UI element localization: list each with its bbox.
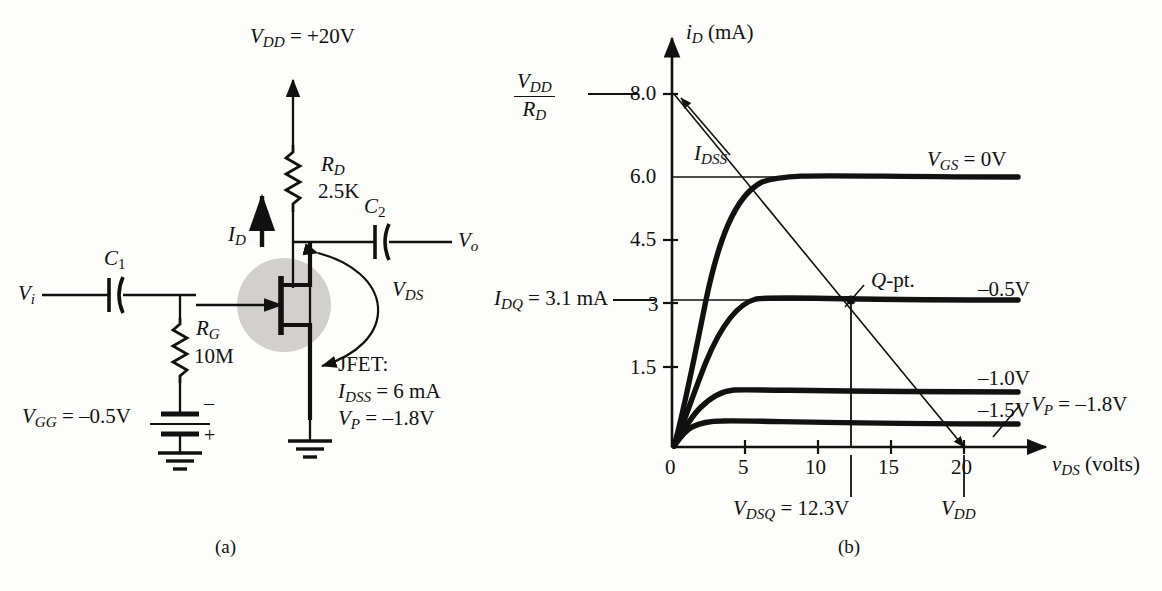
- device-idss: IDSS = 6 mA: [338, 379, 441, 406]
- c2-label: C2: [364, 194, 386, 221]
- curve-label-vgs-0v: VGS = 0V: [927, 147, 1006, 174]
- id-label: ID: [228, 222, 246, 249]
- vgg-label: VGG = –0.5V: [22, 404, 131, 431]
- y-axis-ticks: [663, 94, 678, 367]
- vdd-over-rd-label: VDD RD: [514, 70, 555, 124]
- vdsq-label: VDSQ = 12.3V: [733, 496, 849, 523]
- resistor-rd: [286, 145, 300, 212]
- input-branch: [42, 277, 196, 313]
- idss-label: IDSS: [694, 141, 727, 168]
- device-vp: VP = –1.8V: [338, 406, 434, 433]
- curve-label-vgs-1p0v: –1.0V: [978, 366, 1030, 391]
- vdd-supply-label: VDD = +20V: [250, 24, 355, 51]
- y-tick-label-4p5: 4.5: [630, 227, 656, 252]
- panel-a-caption: (a): [215, 536, 236, 558]
- capacitor-c2: [375, 224, 452, 260]
- x-tick-label-20: 20: [951, 455, 972, 480]
- idq-label: IDQ = 3.1 mA: [494, 286, 608, 313]
- curve-label-vgs-1p5v: –1.5V: [978, 398, 1030, 423]
- vo-label: Vo: [458, 228, 478, 255]
- rd-value: 2.5K: [318, 179, 359, 204]
- curve-vgs-1p0v: [674, 390, 1018, 446]
- rg-label: RG: [196, 316, 220, 343]
- x-axis-title: vDS (volts): [1052, 452, 1140, 479]
- vi-label: Vi: [18, 281, 35, 308]
- ground-source: [288, 420, 332, 457]
- characteristic-curves-plot: [588, 38, 1046, 497]
- y-tick-label-8: 8.0: [630, 81, 656, 106]
- curve-label-vgs-0p5v: –0.5V: [978, 277, 1030, 302]
- resistor-rg-branch: [173, 295, 187, 413]
- y-tick-label-6: 6.0: [630, 164, 656, 189]
- x-tick-label-5: 5: [738, 455, 749, 480]
- x-tick-label-10: 10: [805, 455, 826, 480]
- c1-label: C1: [104, 246, 126, 273]
- x-tick-label-0: 0: [665, 455, 676, 480]
- qpt-leader: [845, 285, 864, 307]
- panel-b-caption: (b): [838, 536, 860, 558]
- y-tick-label-3: 3: [648, 292, 659, 317]
- figure-root: VDD = +20V RD 2.5K ID C2 Vo C1 Vi RG 10M…: [0, 0, 1162, 591]
- curve-vgs-1p5v: [674, 421, 1018, 446]
- vp-label-graph: VP = –1.8V: [1031, 392, 1127, 419]
- q-point-label: Q-pt.: [871, 268, 915, 293]
- y-axis-title: iD (mA): [686, 20, 754, 47]
- curve-vgs-0v: [674, 176, 1018, 446]
- device-title: JFET:: [338, 352, 388, 377]
- rd-label: RD: [321, 152, 345, 179]
- vdd-label-graph: VDD: [941, 496, 976, 523]
- y-tick-label-1p5: 1.5: [630, 355, 656, 380]
- battery-plus-sign: +: [204, 424, 215, 447]
- ground-gate: [158, 453, 202, 469]
- vds-label: VDS: [392, 277, 423, 304]
- battery-vgg: [150, 414, 210, 452]
- x-tick-label-15: 15: [878, 455, 899, 480]
- battery-minus-sign: –: [204, 392, 214, 415]
- rg-value: 10M: [194, 344, 234, 369]
